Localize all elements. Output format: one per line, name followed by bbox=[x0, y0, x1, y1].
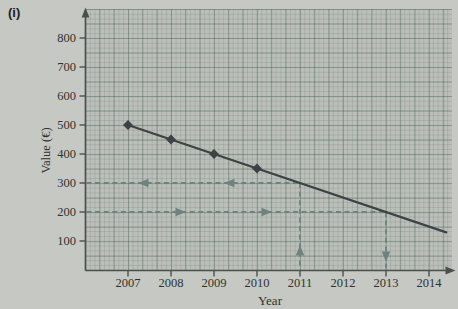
x-axis-title: Year bbox=[240, 293, 300, 308]
guide-arrowhead-right-icon bbox=[262, 208, 273, 217]
guide-arrowhead-up-icon bbox=[296, 245, 305, 256]
y-tick-label: 800 bbox=[36, 31, 76, 45]
y-tick-label: 600 bbox=[36, 89, 76, 103]
y-axis-title: Value (€) bbox=[39, 106, 54, 196]
guide-arrowhead-left-icon bbox=[138, 179, 149, 188]
data-point-marker bbox=[123, 120, 133, 130]
x-tick-label: 2012 bbox=[321, 276, 365, 290]
y-tick-label: 100 bbox=[36, 234, 76, 248]
y-axis-arrow-icon bbox=[82, 8, 90, 18]
data-point-marker bbox=[209, 149, 219, 159]
x-tick-label: 2011 bbox=[278, 276, 322, 290]
data-point-marker bbox=[252, 164, 262, 174]
x-tick-label: 2007 bbox=[106, 276, 150, 290]
depreciation-chart-figure: (i) 100 200 300 400 500 600 700 800 2007… bbox=[0, 0, 458, 309]
guide-arrowhead-left-icon bbox=[224, 179, 235, 188]
x-tick-label: 2009 bbox=[192, 276, 236, 290]
y-tick-label: 200 bbox=[36, 205, 76, 219]
guide-arrowhead-down-icon bbox=[382, 252, 391, 263]
data-point-marker bbox=[166, 135, 176, 145]
x-tick-label: 2008 bbox=[149, 276, 193, 290]
x-tick-label: 2013 bbox=[364, 276, 408, 290]
x-tick-label: 2014 bbox=[407, 276, 451, 290]
x-axis-arrow-icon bbox=[446, 267, 456, 275]
y-tick-label: 700 bbox=[36, 60, 76, 74]
value-line bbox=[128, 125, 446, 232]
guide-arrowhead-right-icon bbox=[176, 208, 187, 217]
x-tick-label: 2010 bbox=[235, 276, 279, 290]
